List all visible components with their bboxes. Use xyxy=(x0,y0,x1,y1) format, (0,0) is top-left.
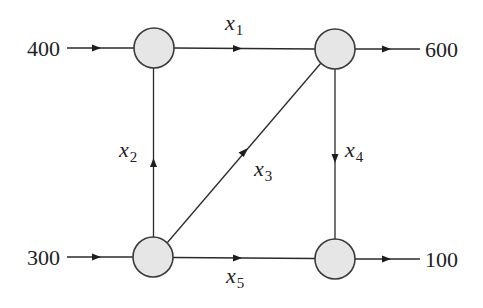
edge-x2-label: x2 xyxy=(118,137,137,165)
arrow-right-icon xyxy=(233,255,242,262)
arrow-right-icon xyxy=(233,45,242,52)
outflow-600: 600 xyxy=(355,37,458,62)
node-top-right xyxy=(315,29,355,69)
arrow-diagonal-icon xyxy=(239,148,249,157)
edge-x1-label: x1 xyxy=(224,10,243,38)
node-bottom-right xyxy=(315,239,355,279)
network-flow-diagram: 400 300 600 100 x1 x2 x3 xyxy=(0,0,483,308)
edge-x3-label: x3 xyxy=(253,156,272,184)
inflow-300-label: 300 xyxy=(27,245,60,270)
inflow-400-label: 400 xyxy=(27,36,60,61)
outflow-100: 100 xyxy=(355,247,458,272)
arrow-right-icon xyxy=(382,256,391,263)
outflow-600-label: 600 xyxy=(425,37,458,62)
inflow-400: 400 xyxy=(27,36,134,61)
edge-x5: x5 xyxy=(173,255,315,292)
node-bottom-left xyxy=(133,237,173,277)
arrow-right-icon xyxy=(382,46,391,53)
arrow-up-icon xyxy=(150,158,157,167)
outflow-100-label: 100 xyxy=(425,247,458,272)
node-top-left xyxy=(134,28,174,68)
arrow-down-icon xyxy=(332,154,339,163)
arrow-right-icon xyxy=(92,45,101,52)
edge-x3: x3 xyxy=(167,63,321,243)
edge-x4: x4 xyxy=(332,69,364,239)
arrow-right-icon xyxy=(92,254,101,261)
edge-x5-line xyxy=(173,258,315,259)
edge-x5-label: x5 xyxy=(225,263,244,291)
edge-x1: x1 xyxy=(174,10,315,52)
edge-x1-line xyxy=(174,48,315,49)
edge-x4-label: x4 xyxy=(344,137,364,165)
inflow-300: 300 xyxy=(27,245,133,270)
edge-x2: x2 xyxy=(118,68,157,237)
